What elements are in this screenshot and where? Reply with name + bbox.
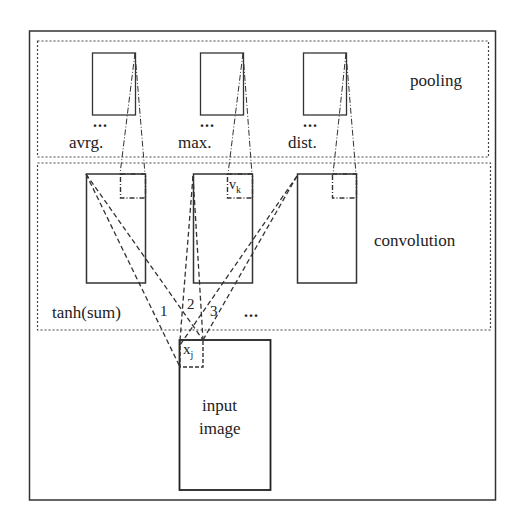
pooling-region — [38, 41, 489, 157]
activation-label: tanh(sum) — [52, 304, 121, 321]
vk-subscript: k — [236, 184, 241, 195]
pool-window-1 — [121, 174, 146, 198]
pool-window-3 — [333, 174, 357, 198]
pooling-map-avrg — [93, 53, 136, 115]
vk-letter: v — [229, 177, 236, 192]
convolution-connections — [86, 174, 297, 367]
ellipsis-dist: ... — [303, 114, 318, 130]
pooling-label-avrg: avrg. — [69, 134, 103, 151]
convolution-label: convolution — [374, 232, 455, 249]
conv-map-1 — [87, 174, 146, 283]
input-image — [180, 340, 271, 490]
pooling-map-dist — [304, 53, 347, 115]
input-unit-xj: xj — [183, 342, 193, 360]
ellipsis-max: ... — [200, 114, 215, 130]
xj-subscript: j — [191, 349, 194, 360]
pooling-label-dist: dist. — [288, 134, 317, 151]
more-maps-ellipsis: ... — [244, 304, 259, 320]
pooling-label-max: max. — [178, 134, 212, 151]
connection-number-1: 1 — [160, 304, 168, 319]
conv-map-2 — [194, 174, 253, 283]
conv-unit-vk: vk — [229, 178, 241, 195]
conv-map-3 — [298, 174, 357, 283]
outer-frame — [30, 31, 496, 500]
pooling-label: pooling — [410, 72, 462, 89]
ellipsis-avrg: ... — [93, 114, 108, 130]
pooling-map-max — [201, 53, 244, 115]
input-label-line1: input — [202, 397, 237, 414]
pooling-connections — [120, 53, 356, 174]
connection-number-2: 2 — [187, 297, 195, 312]
connection-number-3: 3 — [210, 304, 218, 319]
xj-letter: x — [183, 341, 191, 357]
input-label-line2: image — [199, 420, 241, 437]
